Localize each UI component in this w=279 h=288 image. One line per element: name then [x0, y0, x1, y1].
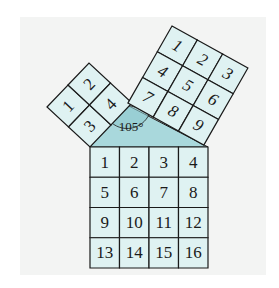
- angle-label: 105°: [119, 119, 144, 134]
- cell-number: 15: [155, 243, 172, 262]
- cell-number: 10: [126, 213, 143, 232]
- cell-number: 7: [160, 183, 169, 202]
- cell-number: 2: [130, 153, 139, 172]
- cell-number: 4: [189, 153, 198, 172]
- cell-number: 9: [101, 213, 110, 232]
- cell-number: 12: [185, 213, 202, 232]
- cell-number: 11: [156, 213, 172, 232]
- cell-number: 1: [101, 153, 110, 172]
- cell-number: 14: [126, 243, 144, 262]
- cell-number: 16: [185, 243, 202, 262]
- pythagorean-figure: 105° 1234 123456789 12345678910111213141…: [0, 0, 279, 288]
- cell-number: 6: [130, 183, 139, 202]
- cell-number: 5: [101, 183, 110, 202]
- bottom-square: 12345678910111213141516: [90, 147, 208, 268]
- cell-number: 13: [96, 243, 113, 262]
- cell-number: 8: [189, 183, 198, 202]
- cell-number: 3: [160, 153, 169, 172]
